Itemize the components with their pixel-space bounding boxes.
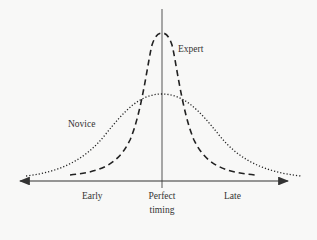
early-label: Early xyxy=(82,191,103,202)
expert-label: Expert xyxy=(178,44,203,55)
late-label: Late xyxy=(224,191,241,202)
perfect-label-line2: timing xyxy=(142,205,182,216)
novice-label: Novice xyxy=(68,119,95,130)
novice-curve xyxy=(26,94,301,176)
perfect-timing-label: Perfect timing xyxy=(142,191,182,216)
perfect-label-line1: Perfect xyxy=(142,191,182,202)
